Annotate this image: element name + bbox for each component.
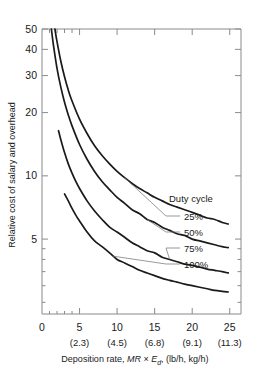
x-title-mr: MR [127,354,141,364]
legend-item-75: 75% [184,243,204,254]
legend-item-100: 100% [184,259,209,270]
y-tick-label-30: 30 [25,69,37,81]
x-tick-label-5: 5 [77,321,83,333]
x-axis-title-text: Deposition rate, MR × Ed, (lb/h, kg/h) [61,354,208,366]
y-axis-title-text: Relative cost of salary and overhead [7,102,17,248]
x-axis-title: Deposition rate, MR × Ed, (lb/h, kg/h) [61,354,208,366]
x-tick-label-20: 20 [186,321,198,333]
x-tick-label-0: 0 [39,321,45,333]
y-tick-label-20: 20 [25,106,37,118]
x-tick-label-kg-20: (9.1) [182,337,202,348]
x-tick-label-25: 25 [224,321,236,333]
x-tick-label-kg-10: (4.5) [107,337,127,348]
x-tick-label-kg-5: (2.3) [70,337,90,348]
y-axis-title: Relative cost of salary and overhead [7,102,17,248]
x-tick-label-kg-15: (6.8) [145,337,165,348]
legend-item-25: 25% [184,211,204,222]
x-title-trail: , (lb/h, kg/h) [161,354,209,364]
x-tick-label-kg-25: (11.3) [218,337,242,348]
legend-item-50: 50% [184,227,204,238]
y-tick-label-50: 50 [25,23,37,35]
x-tick-label-15: 15 [149,321,161,333]
y-tick-label-40: 40 [25,43,37,55]
x-title-times: × [141,354,151,364]
x-title-lead: Deposition rate, [61,354,127,364]
legend-title: Duty cycle [169,193,213,204]
x-tick-label-10: 10 [111,321,123,333]
y-tick-label-10: 10 [25,169,37,181]
y-tick-label-5: 5 [31,233,37,245]
chart-figure: 0510152025 (2.3)(4.5)(6.8)(9.1)(11.3) 51… [0,0,270,377]
relative-cost-line-chart: 0510152025 (2.3)(4.5)(6.8)(9.1)(11.3) 51… [0,0,270,377]
